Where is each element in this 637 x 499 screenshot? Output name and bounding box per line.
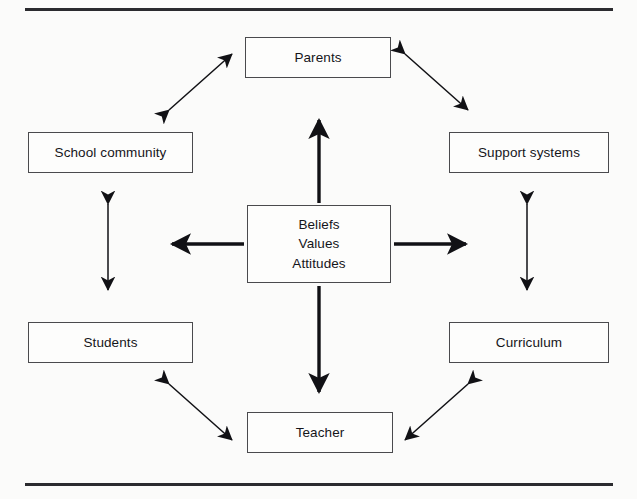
node-parents-label: Parents <box>294 48 341 67</box>
node-teacher-label: Teacher <box>296 423 345 442</box>
node-school-community: School community <box>28 132 193 173</box>
node-school-community-label: School community <box>55 143 167 162</box>
node-curriculum-label: Curriculum <box>496 333 562 352</box>
node-students-label: Students <box>83 333 137 352</box>
arrow-parents-support <box>405 54 468 110</box>
node-teacher: Teacher <box>247 412 393 453</box>
node-parents: Parents <box>245 37 391 78</box>
bottom-rule <box>25 483 613 486</box>
node-support-systems: Support systems <box>449 132 609 173</box>
top-rule <box>25 8 613 11</box>
diagram-page: Parents School community Support systems… <box>0 0 637 499</box>
node-core-line-values: Values <box>299 234 340 253</box>
arrow-school-parents <box>169 54 232 110</box>
node-core-beliefs-values-attitudes: Beliefs Values Attitudes <box>247 205 391 283</box>
arrow-students-teacher <box>169 384 232 440</box>
node-core-line-beliefs: Beliefs <box>298 215 339 234</box>
node-support-systems-label: Support systems <box>478 143 580 162</box>
node-students: Students <box>28 322 193 363</box>
node-core-line-attitudes: Attitudes <box>292 254 345 273</box>
node-curriculum: Curriculum <box>449 322 609 363</box>
arrow-teacher-curriculum <box>405 384 468 440</box>
